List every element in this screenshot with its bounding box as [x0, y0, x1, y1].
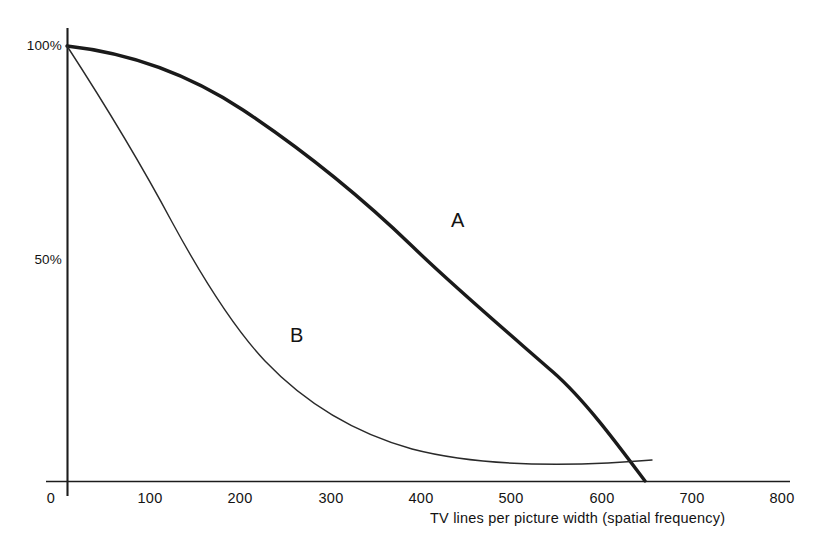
chart-plot-area — [0, 0, 839, 542]
x-tick-label-700: 700 — [662, 490, 722, 506]
x-tick-label-100: 100 — [120, 490, 180, 506]
series-annotation-a: A — [451, 209, 465, 232]
y-tick-label-50: 50% — [6, 252, 62, 267]
series-line-b — [67, 46, 652, 464]
y-tick-label-100: 100% — [6, 38, 62, 53]
x-tick-label-0: 0 — [21, 490, 81, 506]
x-tick-label-400: 400 — [391, 490, 451, 506]
x-tick-label-300: 300 — [301, 490, 361, 506]
series-annotation-b: B — [290, 324, 304, 347]
chart-container: 100% 50% 0 100 200 300 400 500 600 700 8… — [0, 0, 839, 542]
series-line-a — [67, 46, 645, 481]
x-tick-label-600: 600 — [572, 490, 632, 506]
x-axis-title: TV lines per picture width (spatial freq… — [430, 510, 725, 526]
x-tick-label-200: 200 — [210, 490, 270, 506]
x-tick-label-500: 500 — [481, 490, 541, 506]
x-tick-label-800: 800 — [752, 490, 812, 506]
